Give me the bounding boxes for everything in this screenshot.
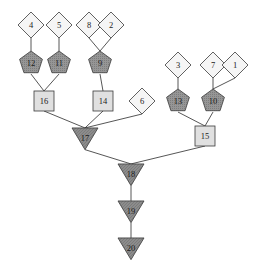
edge-16-17 xyxy=(44,111,85,128)
edge-17-18 xyxy=(85,150,131,164)
node-1[interactable]: 1 xyxy=(222,52,248,78)
node-20[interactable]: 20 xyxy=(118,238,144,260)
triangle-shape[interactable] xyxy=(118,238,144,260)
node-13[interactable]: 13 xyxy=(167,89,190,111)
edge-2-9 xyxy=(100,38,111,51)
square-shape[interactable] xyxy=(195,126,215,146)
node-16[interactable]: 16 xyxy=(34,91,54,111)
node-15[interactable]: 15 xyxy=(195,126,215,146)
pentagon-shape[interactable] xyxy=(20,51,43,73)
node-14[interactable]: 14 xyxy=(93,91,113,111)
node-3[interactable]: 3 xyxy=(165,52,191,78)
pentagon-shape[interactable] xyxy=(48,51,71,73)
edge-13-15 xyxy=(178,112,205,126)
square-shape[interactable] xyxy=(34,91,54,111)
pentagon-shape[interactable] xyxy=(202,89,225,111)
network-diagram: 4582371612119131016141517181920 xyxy=(0,0,263,274)
diamond-shape[interactable] xyxy=(46,12,72,38)
node-18[interactable]: 18 xyxy=(118,164,144,186)
edge-11-16 xyxy=(44,74,59,91)
node-layer: 4582371612119131016141517181920 xyxy=(18,12,248,260)
node-5[interactable]: 5 xyxy=(46,12,72,38)
node-2[interactable]: 2 xyxy=(98,12,124,38)
diamond-shape[interactable] xyxy=(222,52,248,78)
node-9[interactable]: 9 xyxy=(89,51,112,73)
triangle-shape[interactable] xyxy=(118,164,144,186)
pentagon-shape[interactable] xyxy=(89,51,112,73)
square-shape[interactable] xyxy=(93,91,113,111)
node-6[interactable]: 6 xyxy=(129,88,155,114)
edge-9-14 xyxy=(100,74,103,91)
diamond-shape[interactable] xyxy=(165,52,191,78)
diamond-shape[interactable] xyxy=(98,12,124,38)
triangle-shape[interactable] xyxy=(72,128,98,150)
edge-15-18 xyxy=(131,146,205,164)
edge-8-9 xyxy=(89,38,100,51)
pentagon-shape[interactable] xyxy=(167,89,190,111)
node-11[interactable]: 11 xyxy=(48,51,71,73)
edge-10-15 xyxy=(205,112,213,126)
node-19[interactable]: 19 xyxy=(118,201,144,223)
edge-12-16 xyxy=(31,74,44,91)
diagram-canvas: 4582371612119131016141517181920 xyxy=(0,0,263,274)
diamond-shape[interactable] xyxy=(18,12,44,38)
node-4[interactable]: 4 xyxy=(18,12,44,38)
diamond-shape[interactable] xyxy=(129,88,155,114)
node-10[interactable]: 10 xyxy=(202,89,225,111)
node-17[interactable]: 17 xyxy=(72,128,98,150)
edge-1-10 xyxy=(213,78,235,89)
node-12[interactable]: 12 xyxy=(20,51,43,73)
triangle-shape[interactable] xyxy=(118,201,144,223)
edge-6-17 xyxy=(85,114,142,128)
